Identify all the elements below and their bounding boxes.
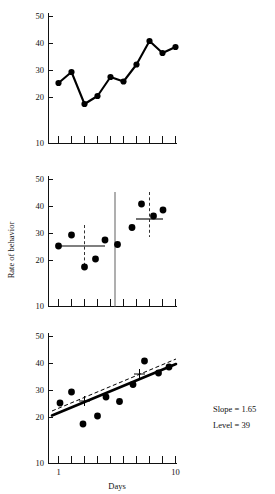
panel-top-x-ticks — [59, 136, 176, 144]
data-point — [172, 44, 178, 50]
annotation-block: Slope = 1.65 Level = 39 — [213, 404, 256, 430]
data-point — [114, 241, 121, 248]
panel-bottom: 50 40 30 20 10 — [36, 331, 257, 491]
three-panel-behavior-chart: 50 40 30 20 10 — [0, 0, 275, 494]
chart-canvas: 50 40 30 20 10 — [0, 0, 275, 494]
panel-middle-y-tick-labels: 50 40 30 20 10 — [36, 174, 45, 311]
data-point — [94, 413, 101, 420]
x-tick-label-last: 10 — [171, 467, 180, 477]
panel-middle: 50 40 30 20 10 — [6, 174, 177, 311]
panel-middle-x-ticks — [59, 299, 176, 307]
phase-2-crosshair — [136, 192, 163, 237]
data-point — [166, 364, 173, 371]
panel-bottom-x-ticks — [59, 456, 176, 464]
data-point — [57, 400, 64, 407]
y-tick-label-50: 50 — [36, 331, 45, 341]
y-tick-label-50: 50 — [36, 11, 45, 21]
y-tick-label-30: 30 — [36, 65, 45, 75]
annotation-level: Level = 39 — [213, 420, 250, 430]
panel-bottom-axes — [49, 333, 178, 464]
panel-middle-y-ticks — [49, 179, 54, 306]
data-point — [107, 74, 113, 80]
data-point — [133, 61, 139, 67]
data-point — [81, 264, 88, 271]
data-point — [129, 224, 136, 231]
data-point — [68, 389, 75, 396]
data-point — [92, 256, 99, 263]
data-point — [68, 69, 74, 75]
panel-top-y-tick-labels: 50 40 30 20 10 — [36, 11, 45, 148]
y-tick-label-30: 30 — [36, 228, 45, 238]
y-tick-label-20: 20 — [36, 255, 45, 265]
x-axis-title: Days — [108, 481, 125, 491]
data-point — [120, 78, 126, 84]
data-point — [80, 421, 87, 428]
data-point — [55, 243, 62, 250]
panel-top: 50 40 30 20 10 — [36, 11, 179, 148]
data-point — [138, 201, 145, 208]
data-point — [141, 358, 148, 365]
data-point — [146, 38, 152, 44]
annotation-slope: Slope = 1.65 — [213, 404, 256, 414]
y-tick-label-20: 20 — [36, 412, 45, 422]
data-point — [159, 50, 165, 56]
data-point — [116, 398, 123, 405]
panel-top-series-path — [59, 41, 176, 104]
y-tick-label-10: 10 — [36, 138, 45, 148]
panel-middle-axes — [49, 176, 178, 307]
data-point — [103, 394, 110, 401]
y-axis-title: Rate of behavior — [6, 222, 16, 279]
y-tick-label-40: 40 — [36, 38, 45, 48]
data-point — [81, 101, 87, 107]
panel-bottom-y-tick-labels: 50 40 30 20 10 — [36, 331, 45, 468]
data-point — [94, 93, 100, 99]
data-point — [155, 370, 162, 377]
y-tick-label-10: 10 — [36, 458, 45, 468]
panel-bottom-y-ticks — [49, 336, 54, 463]
x-tick-label-first: 1 — [56, 467, 60, 477]
y-tick-label-50: 50 — [36, 174, 45, 184]
y-tick-label-30: 30 — [36, 385, 45, 395]
data-point — [102, 237, 109, 244]
trend-line-dashed — [52, 359, 176, 411]
panel-bottom-data-points — [57, 358, 173, 428]
panel-top-y-ticks — [49, 16, 54, 143]
panel-top-data-points — [55, 38, 178, 107]
data-point — [68, 232, 75, 239]
data-point — [160, 207, 167, 214]
data-point — [150, 213, 157, 220]
y-tick-label-40: 40 — [36, 201, 45, 211]
y-tick-label-20: 20 — [36, 92, 45, 102]
y-tick-label-10: 10 — [36, 301, 45, 311]
data-point — [55, 80, 61, 86]
y-tick-label-40: 40 — [36, 358, 45, 368]
data-point — [130, 381, 137, 388]
